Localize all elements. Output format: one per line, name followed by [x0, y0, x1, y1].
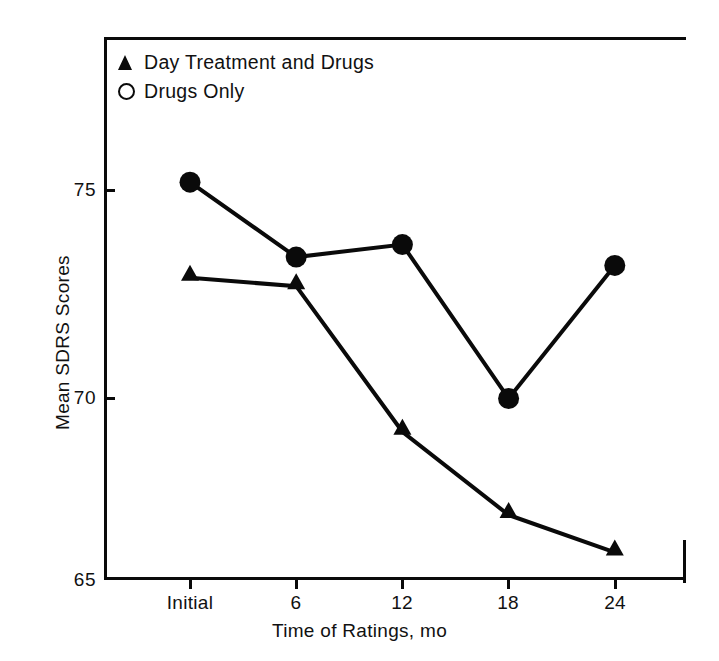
- y-tick-mark-70: [104, 397, 115, 400]
- legend-item-label: Day Treatment and Drugs: [144, 51, 374, 74]
- plot-frame-right-stub: [683, 540, 686, 583]
- x-tick-mark-initial: [189, 578, 192, 589]
- circle-marker-icon: [118, 83, 144, 100]
- y-axis-title: Mean SDRS Scores: [52, 255, 74, 430]
- x-tick-mark-18: [507, 578, 510, 589]
- x-tick-mark-12: [401, 578, 404, 589]
- legend-item-label: Drugs Only: [144, 80, 245, 103]
- y-tick-label-75: 75: [52, 179, 96, 201]
- legend-item-drugs-only: Drugs Only: [118, 77, 374, 106]
- x-tick-mark-24: [614, 578, 617, 589]
- figure-chart: 75 70 65 Initial 6 12 18 24 Time of Rati…: [0, 0, 719, 661]
- y-tick-mark-75: [104, 189, 115, 192]
- legend-item-day-treatment-and-drugs: Day Treatment and Drugs: [118, 48, 374, 77]
- y-tick-label-65: 65: [52, 569, 96, 591]
- x-tick-mark-6: [295, 578, 298, 589]
- x-tick-label-18: 18: [497, 592, 519, 614]
- plot-frame: [104, 37, 686, 580]
- x-tick-label-24: 24: [604, 592, 626, 614]
- x-tick-label-6: 6: [291, 592, 302, 614]
- x-tick-label-initial: Initial: [167, 592, 213, 614]
- x-axis-title: Time of Ratings, mo: [0, 620, 719, 642]
- legend: Day Treatment and Drugs Drugs Only: [118, 48, 374, 106]
- x-tick-label-12: 12: [391, 592, 413, 614]
- triangle-marker-icon: [118, 55, 144, 70]
